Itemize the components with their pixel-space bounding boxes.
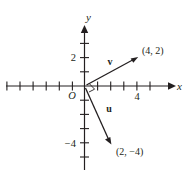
x-axis-arrowhead [168, 82, 176, 90]
y-axis-arrowhead [81, 25, 88, 33]
vector-u-line [86, 88, 109, 139]
vector-v-arrowhead [131, 57, 139, 63]
x-tick-label-4: 4 [134, 91, 140, 102]
vector-diagram-figure: y x O 2 −4 4 v u (4, 2) (2, −4) [0, 0, 187, 177]
y-tick-label-2: 2 [71, 52, 76, 63]
x-axis-label: x [176, 80, 182, 92]
y-axis-label: y [85, 11, 91, 23]
point-label-4-2: (4, 2) [142, 45, 164, 57]
vector-u-group [86, 88, 112, 145]
coordinate-plot: y x O 2 −4 4 v u (4, 2) (2, −4) [0, 0, 187, 177]
right-angle-icon [89, 84, 95, 93]
point-label-2-neg4: (2, −4) [116, 146, 143, 158]
y-tick-label-neg4: −4 [65, 138, 77, 149]
vector-u-arrowhead [105, 137, 111, 145]
vector-v-label: v [108, 56, 113, 67]
vector-u-label: u [106, 103, 112, 114]
origin-label: O [68, 90, 76, 101]
